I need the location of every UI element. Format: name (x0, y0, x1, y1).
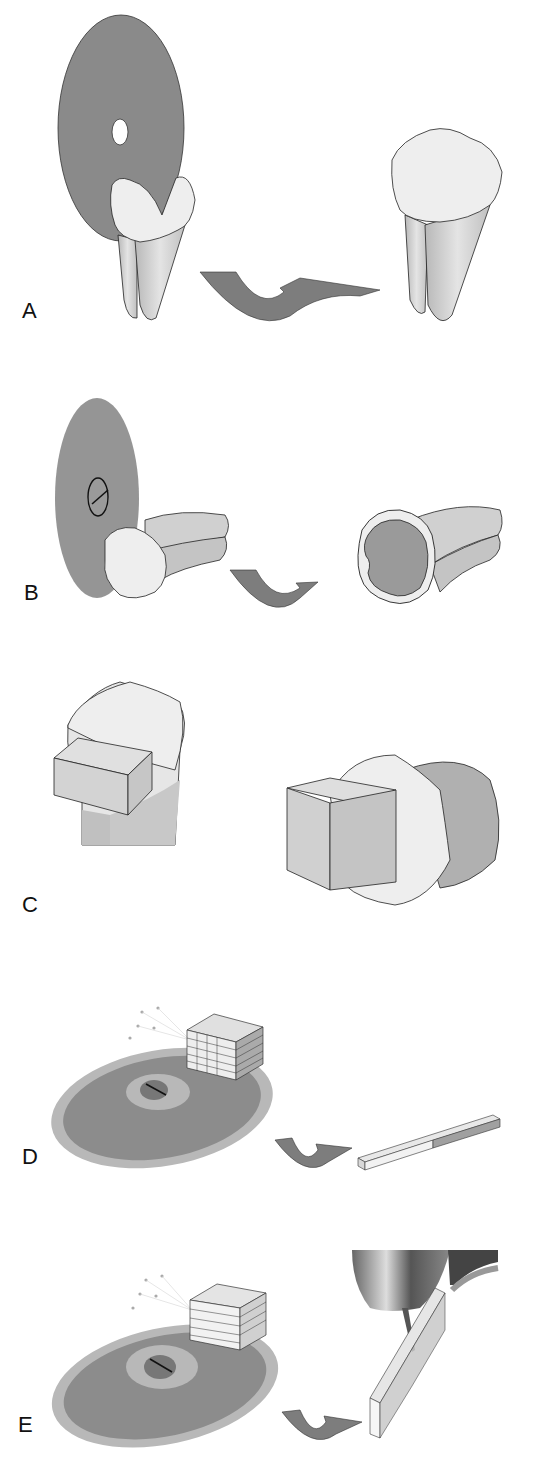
tooth-root (118, 235, 137, 318)
coolant-spray (128, 1006, 159, 1039)
panel-e-illustration (0, 1190, 543, 1469)
panel-label-a: A (22, 298, 37, 324)
panel-a-illustration (0, 0, 543, 330)
disc-hub-center (140, 1080, 168, 1100)
tooth-root (82, 810, 110, 845)
panel-label-e: E (18, 1412, 33, 1438)
process-arrow (230, 570, 318, 607)
panel-e: E (0, 1190, 543, 1469)
process-arrow (282, 1410, 362, 1440)
panel-a: A (0, 0, 543, 330)
disc-hub-center (144, 1355, 176, 1379)
cross-section-dentin (364, 520, 428, 596)
disc-hole (88, 478, 108, 516)
sectioned-crown (392, 129, 502, 222)
panel-label-c: C (22, 892, 38, 918)
panel-b-illustration (0, 330, 543, 620)
process-arrow (200, 272, 380, 321)
process-arrow (275, 1138, 352, 1168)
disc-hole (112, 119, 128, 145)
coolant-spray (131, 1274, 163, 1309)
panel-c-illustration (0, 620, 543, 940)
panel-c: C (0, 620, 543, 940)
panel-b: B (0, 330, 543, 620)
panel-label-d: D (22, 1144, 38, 1170)
beam-specimen (358, 1115, 500, 1162)
panel-label-b: B (24, 580, 39, 606)
panel-d-illustration (0, 930, 543, 1190)
panel-d: D (0, 930, 543, 1190)
